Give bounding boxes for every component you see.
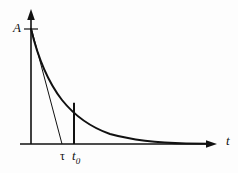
plot-canvas [0, 0, 238, 173]
y-axis-arrow-icon [27, 9, 35, 20]
tau-label: τ [60, 150, 65, 162]
t0-label-subscript: 0 [76, 156, 81, 166]
amplitude-label: A [13, 21, 21, 34]
exponential-decay-figure: A τ t0 t [0, 0, 238, 173]
t0-label: t0 [72, 149, 80, 166]
time-axis-label: t [226, 134, 230, 147]
